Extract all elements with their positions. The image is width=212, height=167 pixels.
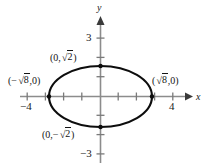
- sqrt-group-right: √8: [155, 76, 167, 87]
- point-label-top: (0,√2): [50, 53, 77, 64]
- point-label-left: (−√8,0): [8, 76, 40, 87]
- vertex-right-dot: [150, 94, 154, 98]
- x-tick-label-4: 4: [169, 101, 175, 112]
- radicand-bottom: 2: [65, 127, 71, 139]
- sqrt-group-bottom: √2: [59, 130, 71, 141]
- point-label-left-close: ,0): [30, 75, 41, 86]
- point-label-right: (√8,0): [152, 76, 179, 87]
- y-axis-arrowhead: [97, 16, 105, 25]
- point-label-top-open: (0,: [50, 52, 61, 63]
- ellipse-graph-figure: x y −4 4 3 −3 (0,√2) (0,−√2) (−√8,0) (√8…: [0, 0, 212, 167]
- sqrt-group-left: √8: [17, 76, 29, 87]
- sqrt-group-top: √2: [61, 53, 73, 64]
- x-axis-arrowhead: [185, 93, 193, 101]
- y-tick-label-3: 3: [86, 32, 92, 43]
- y-axis-label: y: [97, 3, 101, 13]
- radicand-right: 8: [162, 73, 168, 85]
- point-label-bottom: (0,−√2): [42, 130, 74, 141]
- point-label-bottom-close: ): [71, 129, 74, 140]
- radicand-left: 8: [24, 73, 30, 85]
- point-label-top-close: ): [73, 52, 76, 63]
- point-label-bottom-open: (0,: [42, 129, 53, 140]
- co-vertex-top-dot: [98, 64, 102, 68]
- y-tick-label-neg-3: −3: [80, 148, 92, 159]
- vertex-left-dot: [47, 94, 51, 98]
- x-tick-label-neg-4: −4: [20, 101, 32, 112]
- x-axis-label: x: [196, 92, 200, 102]
- co-vertex-bottom-dot: [98, 125, 102, 129]
- radicand-top: 2: [67, 50, 73, 62]
- point-label-right-close: ,0): [168, 75, 179, 86]
